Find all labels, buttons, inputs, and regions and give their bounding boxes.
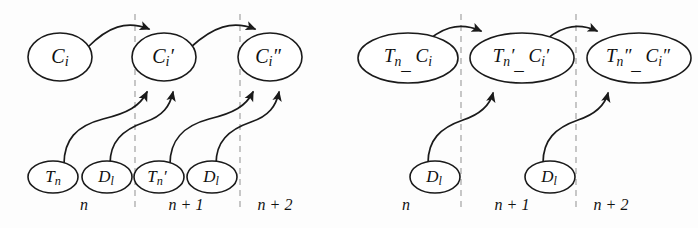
node-t-n[interactable]: Tn — [28, 161, 78, 193]
edge-d-l-1-to-c-i-prime — [110, 92, 173, 164]
diagram-figure: Ci Ci′ Ci″ Tn Dl Tn′ — [0, 0, 698, 228]
node-tc-3[interactable]: Tn″_ Ci″ — [587, 33, 691, 83]
node-d-l-4[interactable]: Dl — [525, 161, 575, 193]
time-label-right-2: n + 2 — [594, 196, 629, 213]
edge-d-l-2-to-c-i-dprime — [216, 92, 279, 164]
right-panel: Tn_ Ci Tn′_ Ci′ Tn″_ Ci″ Dl Dl n n + 1 — [358, 14, 691, 213]
time-label-right-0: n — [402, 196, 410, 213]
node-c-i-dprime-label: Ci″ — [255, 45, 281, 70]
diagram-canvas: Ci Ci′ Ci″ Tn Dl Tn′ — [0, 0, 698, 228]
node-c-i-dprime[interactable]: Ci″ — [238, 33, 302, 81]
time-label-right-1: n + 1 — [495, 196, 530, 213]
node-t-n-prime[interactable]: Tn′ — [134, 161, 184, 193]
time-label-left-2: n + 2 — [258, 196, 293, 213]
time-label-left-1: n + 1 — [169, 196, 204, 213]
node-d-l-2[interactable]: Dl — [187, 161, 237, 193]
node-c-i-prime-label: Ci′ — [152, 45, 174, 70]
left-panel: Ci Ci′ Ci″ Tn Dl Tn′ — [28, 14, 302, 213]
node-d-l-3[interactable]: Dl — [410, 161, 460, 193]
time-label-left-0: n — [80, 196, 88, 213]
node-c-i[interactable]: Ci — [28, 33, 92, 81]
node-tc-1[interactable]: Tn_ Ci — [358, 33, 458, 83]
node-d-l-1[interactable]: Dl — [82, 161, 132, 193]
node-tc-2[interactable]: Tn′_ Ci′ — [470, 33, 574, 83]
node-c-i-prime[interactable]: Ci′ — [132, 33, 196, 81]
